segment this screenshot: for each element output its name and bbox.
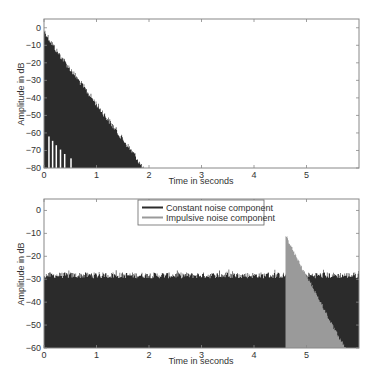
y-tick-label: −60 <box>26 128 41 138</box>
y-tick-label: −20 <box>26 58 41 68</box>
y-tick-label: −60 <box>26 343 41 353</box>
legend-label-impulsive: Impulsive noise component <box>166 213 276 223</box>
y-tick-label: 0 <box>36 205 41 215</box>
x-tick-label: 0 <box>41 170 46 180</box>
x-tick-label: 5 <box>304 170 309 180</box>
legend: Constant noise component Impulsive noise… <box>138 200 276 225</box>
y-tick-label: −30 <box>26 75 41 85</box>
x-tick-label: 0 <box>41 350 46 360</box>
bottom-plot: 012345 0−10−20−30−40−50−60 Time in secon… <box>16 199 359 366</box>
legend-label-constant: Constant noise component <box>166 203 274 213</box>
top-x-axis-label: Time in seconds <box>168 176 234 186</box>
y-tick-label: 0 <box>36 23 41 33</box>
figure: 012345 0−10−20−30−40−50−60−70−80 Time in… <box>0 0 376 380</box>
y-tick-label: −50 <box>26 110 41 120</box>
x-tick-label: 1 <box>94 170 99 180</box>
y-tick-label: −80 <box>26 163 41 173</box>
top-plot: 012345 0−10−20−30−40−50−60−70−80 Time in… <box>16 19 359 186</box>
x-tick-label: 5 <box>304 350 309 360</box>
y-tick-label: −10 <box>26 228 41 238</box>
bottom-x-axis-label: Time in seconds <box>168 356 234 366</box>
x-tick-label: 2 <box>146 170 151 180</box>
y-tick-label: −70 <box>26 145 41 155</box>
top-y-axis-label: Amplitude in dB <box>16 62 26 125</box>
y-tick-label: −20 <box>26 251 41 261</box>
y-tick-label: −40 <box>26 93 41 103</box>
x-tick-label: 2 <box>146 350 151 360</box>
x-tick-label: 4 <box>251 350 256 360</box>
x-tick-label: 4 <box>251 170 256 180</box>
y-tick-label: −50 <box>26 320 41 330</box>
bottom-y-axis-label: Amplitude in dB <box>16 242 26 305</box>
y-tick-label: −30 <box>26 274 41 284</box>
y-tick-label: −10 <box>26 40 41 50</box>
x-tick-label: 1 <box>94 350 99 360</box>
y-tick-label: −40 <box>26 297 41 307</box>
